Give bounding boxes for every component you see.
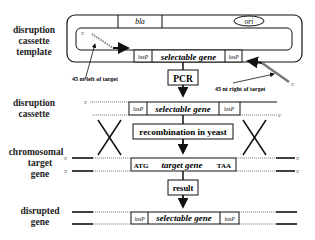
loxp-right-label: loxP xyxy=(228,54,239,60)
ori-label: ori xyxy=(245,17,254,26)
cassette-top-5prime: 5' xyxy=(84,100,87,105)
result-step: result xyxy=(168,171,198,207)
annotation-left: 45 nt left of target xyxy=(72,76,118,82)
bla-label: bla xyxy=(135,17,145,26)
chromosomal-target: 5' 3' 3' 5' ATG target gene TAA xyxy=(64,156,300,174)
left-primer: 5' 45 nt left of target xyxy=(72,31,128,82)
target-gene-label: target gene xyxy=(161,160,202,170)
cassette-bottom-5prime: 5' xyxy=(278,113,281,118)
pcr-label: PCR xyxy=(173,74,193,84)
loxp-left-label: loxP xyxy=(133,106,144,112)
right-primer: 5' 45 nt right of target xyxy=(215,61,295,92)
chromosome-bottom-left: 3' xyxy=(64,169,68,174)
selectable-gene-label: selectable gene xyxy=(155,213,212,223)
loxp-right-label: loxP xyxy=(224,216,235,222)
start-codon-label: ATG xyxy=(134,162,149,170)
disruption-diagram: bla ori loxP selectable gene loxP 5' 45 … xyxy=(0,0,315,240)
selectable-gene-label: selectable gene xyxy=(160,52,217,62)
primer-right-5prime: 5' xyxy=(291,82,295,87)
selectable-gene-label: selectable gene xyxy=(154,104,211,114)
crossover-right xyxy=(243,120,266,155)
primer-left-5prime: 5' xyxy=(81,31,85,36)
disrupted-gene: loxP selectable gene loxP xyxy=(72,212,297,224)
loxp-left-label: loxP xyxy=(138,54,149,60)
result-label: result xyxy=(173,183,194,193)
stop-codon-label: TAA xyxy=(217,162,231,170)
chromosome-bottom-right: 5' xyxy=(296,169,300,174)
chromosome-top-left: 5' xyxy=(64,156,68,161)
recombination-label: recombination in yeast xyxy=(139,127,226,137)
loxp-left-label: loxP xyxy=(134,216,145,222)
chromosome-top-right: 3' xyxy=(296,156,300,161)
pcr-step: PCR xyxy=(168,62,198,96)
annotation-right: 45 nt right of target xyxy=(215,86,265,92)
plasmid-template: bla ori loxP selectable gene loxP xyxy=(67,15,302,62)
crossover-left xyxy=(98,120,121,155)
recombination-step: recombination in yeast xyxy=(133,115,233,153)
loxp-right-label: loxP xyxy=(224,106,235,112)
